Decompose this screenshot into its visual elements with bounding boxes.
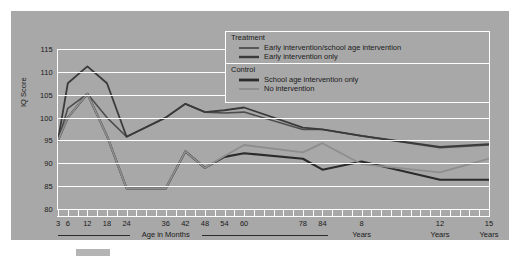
x-axis-tick-label: 6 — [66, 219, 70, 228]
x-axis-tick — [411, 209, 412, 217]
x-axis-tick — [283, 209, 284, 217]
x-axis-tick — [215, 209, 216, 217]
x-axis-tick — [225, 209, 226, 217]
x-axis-tick — [313, 209, 314, 217]
x-axis-tick — [176, 209, 177, 217]
x-axis-tick — [274, 209, 275, 217]
x-axis-tick-label: 78 — [299, 219, 307, 228]
x-axis-tick — [362, 209, 363, 217]
legend-group-treatment-title: Treatment — [231, 33, 489, 43]
legend-item-early-intervention-school-age[interactable]: Early intervention/school age interventi… — [239, 43, 489, 52]
x-axis-tick — [234, 209, 235, 217]
legend-divider — [226, 63, 489, 64]
x-axis-tick — [58, 209, 59, 217]
x-axis-tick — [195, 209, 196, 217]
x-axis-tick — [440, 209, 441, 217]
legend-group-control-title: Control — [231, 65, 489, 75]
legend-item-label: No intervention — [264, 84, 314, 93]
x-axis-tick — [68, 209, 69, 217]
x-axis-tick — [136, 209, 137, 217]
figure-container: 11511010510095908580 IQ Score 3612182436… — [0, 0, 522, 257]
x-axis-tick — [342, 209, 343, 217]
x-axis-tick — [303, 209, 304, 217]
x-axis-unit-label: Years — [480, 230, 499, 239]
x-axis-tick — [146, 209, 147, 217]
x-axis-tick — [97, 209, 98, 217]
gridline — [57, 118, 490, 119]
x-axis-unit-labels: Age in MonthsYearsYearsYears — [57, 230, 490, 242]
x-axis-tick-label: 18 — [103, 219, 111, 228]
y-axis-tick-label: 80 — [44, 205, 53, 214]
y-axis-tick-label: 115 — [40, 45, 53, 54]
y-axis-tick-label: 90 — [44, 159, 53, 168]
x-axis-tick — [460, 209, 461, 217]
x-axis-tick — [254, 209, 255, 217]
x-axis-tick-label: 36 — [162, 219, 170, 228]
x-axis-tick — [352, 209, 353, 217]
legend-swatch-icon — [239, 43, 259, 52]
x-axis-tick — [420, 209, 421, 217]
x-axis-tick — [156, 209, 157, 217]
x-axis-tick — [489, 209, 490, 217]
x-axis-tick-label: 60 — [240, 219, 248, 228]
x-axis-tick — [87, 209, 88, 217]
x-axis-tick-label: 42 — [181, 219, 189, 228]
gridline — [57, 163, 490, 164]
legend-item-label: School age intervention only — [264, 75, 358, 84]
x-axis-tick — [78, 209, 79, 217]
x-axis-tick — [371, 209, 372, 217]
x-axis-tick-label: 84 — [318, 219, 326, 228]
chart-panel: 11511010510095908580 IQ Score 3612182436… — [11, 11, 509, 240]
x-axis-tick-label: 24 — [122, 219, 130, 228]
x-axis-unit-label: Age in Months — [142, 230, 190, 239]
x-axis-tick — [293, 209, 294, 217]
x-axis-tick-label: 12 — [83, 219, 91, 228]
legend-item-no-intervention[interactable]: No intervention — [239, 84, 489, 93]
y-axis-tick-label: 105 — [40, 90, 53, 99]
x-axis-tick-label: 15 — [485, 219, 493, 228]
caption-block — [76, 249, 110, 256]
x-axis-tick-label: 12 — [436, 219, 444, 228]
legend-item-early-intervention-only[interactable]: Early intervention only — [239, 52, 489, 61]
x-axis-tick — [391, 209, 392, 217]
x-axis-tick-label: 48 — [201, 219, 209, 228]
chart-legend: Treatment Early intervention/school age … — [225, 31, 490, 103]
legend-item-school-age-intervention-only[interactable]: School age intervention only — [239, 75, 489, 84]
axis-rule — [202, 235, 328, 236]
x-axis-tick — [185, 209, 186, 217]
x-axis-tick — [332, 209, 333, 217]
legend-item-label: Early intervention/school age interventi… — [264, 43, 401, 52]
x-axis-tick — [401, 209, 402, 217]
axis-rule — [58, 235, 130, 236]
x-axis-tick — [264, 209, 265, 217]
y-axis-title: IQ Score — [19, 77, 28, 107]
x-axis-tick-labels: 361218243642485460788481215 — [57, 219, 490, 230]
x-axis-ticks — [57, 209, 490, 217]
y-axis-tick-labels: 11511010510095908580 — [27, 49, 53, 209]
x-axis-tick-label: 8 — [360, 219, 364, 228]
legend-item-label: Early intervention only — [264, 52, 338, 61]
x-axis-tick — [469, 209, 470, 217]
legend-swatch-icon — [239, 75, 259, 84]
legend-swatch-icon — [239, 52, 259, 61]
y-axis-tick-label: 110 — [40, 67, 53, 76]
x-axis-unit-label: Years — [431, 230, 450, 239]
x-axis-tick-label: 3 — [56, 219, 60, 228]
legend-swatch-icon — [239, 84, 259, 93]
x-axis-tick — [107, 209, 108, 217]
x-axis-tick — [430, 209, 431, 217]
x-axis-tick — [117, 209, 118, 217]
x-axis-tick — [479, 209, 480, 217]
x-axis-tick — [450, 209, 451, 217]
gridline — [57, 140, 490, 141]
gridline — [57, 186, 490, 187]
x-axis-tick — [166, 209, 167, 217]
x-axis-tick — [381, 209, 382, 217]
x-axis-tick — [127, 209, 128, 217]
plot-border-left — [57, 49, 58, 209]
x-axis-tick-label: 54 — [220, 219, 228, 228]
x-axis-unit-label: Years — [352, 230, 371, 239]
y-axis-tick-label: 85 — [44, 182, 53, 191]
x-axis-tick — [322, 209, 323, 217]
x-axis-tick — [205, 209, 206, 217]
